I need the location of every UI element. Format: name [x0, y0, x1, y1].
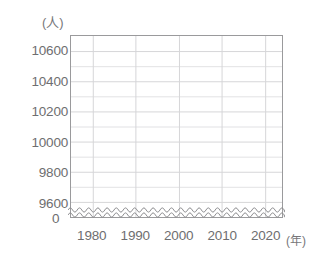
y-axis-tick-label: 10400 — [4, 73, 68, 88]
y-axis-tick-label: 10200 — [4, 104, 68, 119]
y-axis-tick-label: 9600 — [4, 195, 68, 210]
y-axis-tick-label: 10000 — [4, 134, 68, 149]
plot-area — [70, 35, 283, 218]
x-axis-tick-label: 2010 — [208, 228, 237, 243]
x-axis-tick-label: 1990 — [121, 228, 150, 243]
chart-container: (人) 9600980010000102001040010600 0 19801… — [0, 0, 328, 262]
y-axis-zero-label: 0 — [52, 211, 60, 226]
x-axis-tick-label: 2000 — [164, 228, 193, 243]
y-axis-tick-label: 9800 — [4, 165, 68, 180]
y-axis-tick-label: 10600 — [4, 43, 68, 58]
x-axis-tick-label: 2020 — [251, 228, 280, 243]
x-axis-tick-labels: 19801990200020102020 — [0, 228, 328, 252]
x-axis-unit-label: (年) — [286, 231, 306, 248]
x-axis-tick-label: 1980 — [77, 228, 106, 243]
grid-lines — [71, 36, 282, 217]
